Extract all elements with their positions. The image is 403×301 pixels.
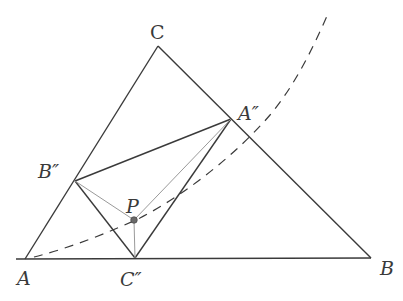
label-a2: A″	[236, 102, 259, 124]
dashed-curve	[34, 16, 327, 257]
pedal-side-c2a2	[135, 119, 231, 258]
label-b: B	[379, 257, 394, 279]
label-c2: C″	[120, 268, 142, 290]
geometry-diagram: C A B A″ B″ C″ P	[0, 0, 403, 301]
label-b2: B″	[37, 160, 59, 182]
segment-p-a2	[134, 119, 231, 220]
label-a: A	[15, 267, 31, 289]
pedal-side-a2b2	[75, 119, 231, 181]
point-p	[131, 217, 138, 224]
side-bc	[158, 46, 371, 258]
label-c: C	[150, 21, 165, 43]
side-ab	[16, 258, 371, 259]
label-p: P	[125, 195, 140, 217]
segment-p-c2	[134, 220, 135, 258]
side-ca	[25, 46, 158, 259]
pedal-side-b2c2	[75, 181, 135, 258]
